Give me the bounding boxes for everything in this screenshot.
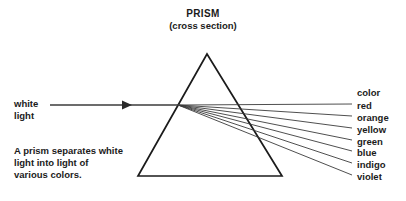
white-light-label: white light [14, 98, 38, 121]
dispersed-ray-indigo [178, 105, 352, 163]
prism-diagram: PRISM (cross section) white light A pris… [0, 0, 406, 201]
prism-triangle-group [138, 54, 282, 176]
white-light-label-line2: light [14, 110, 34, 121]
dispersed-ray-yellow [178, 105, 352, 128]
color-label-red: red [357, 100, 372, 111]
caption-line-2: light into light of [14, 157, 88, 168]
caption-line-1: A prism separates white [14, 145, 123, 156]
dispersed-ray-red [178, 104, 352, 105]
white-light-label-line1: white [14, 98, 38, 109]
color-label-orange: orange [357, 112, 389, 123]
dispersed-ray-blue [178, 105, 352, 151]
caption-text: A prism separates white light into light… [14, 145, 123, 181]
color-label-blue: blue [357, 147, 377, 158]
caption-line-3: various colors. [14, 169, 82, 180]
ray-direction-arrow-icon [122, 101, 132, 110]
dispersed-ray-violet [178, 105, 352, 175]
prism-triangle [138, 54, 282, 176]
color-label-violet: violet [357, 171, 382, 182]
incident-ray-group [50, 101, 178, 110]
legend-heading: color [357, 87, 380, 98]
page-title: PRISM [0, 8, 406, 19]
page-subtitle: (cross section) [0, 20, 406, 31]
color-label-indigo: indigo [357, 159, 386, 170]
color-label-green: green [357, 136, 383, 147]
dispersed-rays-group [178, 104, 352, 175]
color-label-yellow: yellow [357, 124, 386, 135]
